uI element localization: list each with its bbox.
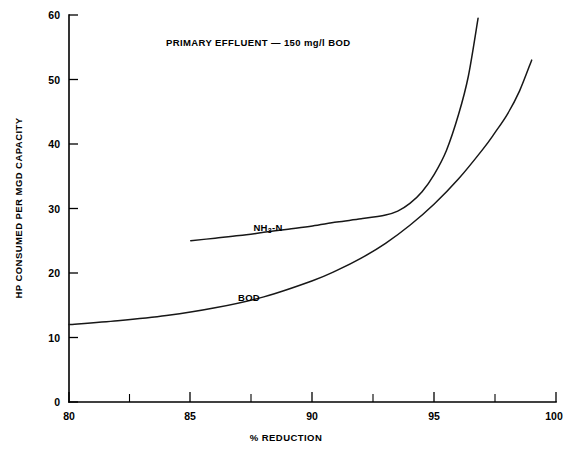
y-tick-label: 20	[48, 267, 60, 279]
chart-container: 60 50 40 30 20 10 0 80 85 90	[0, 0, 572, 457]
x-tick-label: 85	[184, 410, 196, 422]
x-tick-label: 95	[428, 410, 440, 422]
x-tick-label: 80	[63, 410, 75, 422]
y-axis-title: HP CONSUMED PER MGD CAPACITY	[13, 117, 24, 298]
y-tick-label: 30	[48, 203, 60, 215]
y-tick-label: 60	[48, 9, 60, 21]
y-tick-label: 10	[48, 332, 60, 344]
x-tick-label: 100	[545, 410, 563, 422]
chart-background	[0, 0, 572, 457]
chart-title: PRIMARY EFFLUENT — 150 mg/l BOD	[166, 37, 350, 48]
series-label-bod: BOD	[238, 292, 260, 303]
y-tick-label: 0	[54, 396, 60, 408]
y-tick-label: 40	[48, 138, 60, 150]
y-tick-label: 50	[48, 74, 60, 86]
line-chart: 60 50 40 30 20 10 0 80 85 90	[0, 0, 572, 457]
x-tick-label: 90	[306, 410, 318, 422]
x-axis-title: % REDUCTION	[250, 432, 323, 443]
